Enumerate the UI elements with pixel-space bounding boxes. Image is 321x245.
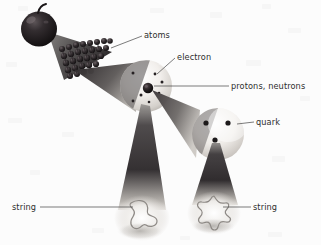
diagram-canvas: atoms electron protons, neutrons quark s… [0, 0, 321, 245]
string-loop-star [187, 191, 241, 235]
string-loop-blob [114, 195, 170, 241]
label-string-left: string [12, 202, 36, 212]
label-protons-neutrons: protons, neutrons [231, 81, 305, 91]
label-string-right: string [253, 202, 277, 212]
label-quark: quark [256, 117, 280, 127]
nucleus [143, 83, 153, 93]
label-electron: electron [177, 52, 211, 62]
scales-of-matter-svg: atoms electron protons, neutrons quark s… [0, 0, 321, 245]
label-atoms: atoms [144, 30, 170, 40]
